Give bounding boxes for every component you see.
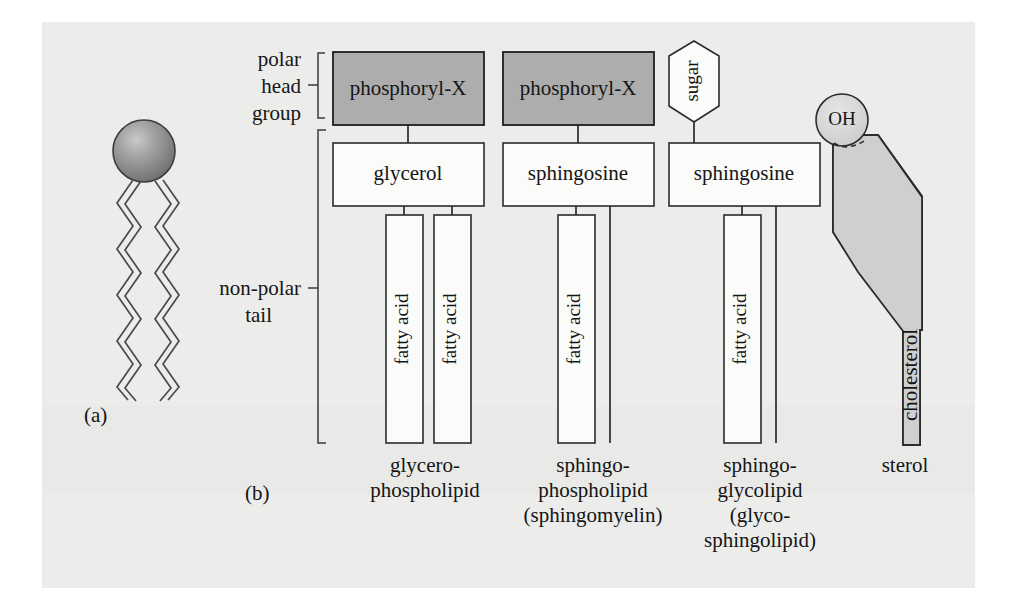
backbone-label-1: glycerol — [374, 161, 443, 185]
oh-label: OH — [828, 108, 856, 129]
figure-root: (a) polar head group non-polar tail phos… — [0, 0, 1020, 614]
label-nonpolar-line1: non-polar — [219, 276, 301, 300]
panel-label-a: (a) — [84, 403, 107, 427]
scan-panel-band — [42, 406, 975, 494]
label-polar-line1: polar — [258, 47, 301, 71]
caption-2-line3: (sphingomyelin) — [524, 503, 663, 527]
fatty-acid-label-2: fatty acid — [563, 293, 584, 365]
fatty-acid-label-3: fatty acid — [729, 293, 750, 365]
caption-3-line1: sphingo- — [723, 453, 797, 477]
head-group-label-1: phosphoryl-X — [350, 76, 467, 100]
label-nonpolar-line2: tail — [245, 303, 272, 327]
caption-2-line1: sphingo- — [556, 453, 630, 477]
backbone-label-3: sphingosine — [694, 161, 794, 185]
label-polar-line3: group — [252, 101, 301, 125]
caption-1-line2: phospholipid — [370, 478, 480, 502]
cholesterol-label: cholesterol — [898, 329, 922, 421]
caption-4-line1: sterol — [882, 453, 929, 477]
polar-head-sphere — [113, 120, 175, 182]
label-polar-line2: head — [261, 74, 301, 98]
fatty-acid-label-1b: fatty acid — [439, 293, 460, 365]
head-group-label-2: phosphoryl-X — [520, 76, 637, 100]
sugar-label: sugar — [681, 60, 702, 102]
caption-2-line2: phospholipid — [538, 478, 648, 502]
caption-3-line3: (glyco- — [730, 503, 791, 527]
panel-label-b: (b) — [245, 481, 270, 505]
caption-1-line1: glycero- — [390, 453, 460, 477]
caption-3-line2: glycolipid — [717, 478, 803, 502]
backbone-label-2: sphingosine — [528, 161, 628, 185]
fatty-acid-label-1a: fatty acid — [391, 293, 412, 365]
lipid-structure-diagram: (a) polar head group non-polar tail phos… — [0, 0, 1020, 614]
caption-3-line4: sphingolipid) — [704, 528, 816, 552]
